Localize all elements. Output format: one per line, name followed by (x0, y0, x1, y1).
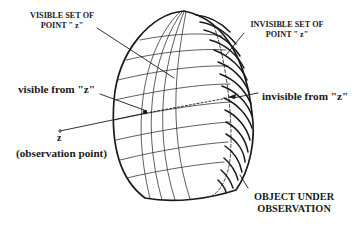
label-object-under-observation: OBJECT UNDER OBSERVATION (246, 192, 342, 215)
label-invisible-from: invisible from "z" (262, 91, 348, 102)
label-visible-set: VISIBLE SET OF POINT " z" (26, 12, 98, 30)
label-object-line2: OBSERVATION (246, 204, 342, 214)
latitude-grid-lines (114, 34, 230, 178)
label-observation-point-caption: (observation point) (16, 148, 107, 159)
sight-line (60, 113, 146, 131)
invisible-region-hatching (196, 15, 252, 192)
label-visible-from: visible from "z" (18, 84, 95, 95)
label-visible-set-line1: VISIBLE SET OF (26, 12, 98, 20)
label-observation-point-symbol: z (57, 133, 61, 143)
leader-visible-from (100, 94, 144, 110)
label-visible-set-line2: POINT " z" (26, 22, 98, 30)
label-object-line1: OBJECT UNDER (246, 192, 342, 202)
label-invisible-set-line2: POINT " z" (245, 31, 329, 39)
label-invisible-set: INVISIBLE SET OF POINT " z" (245, 21, 329, 39)
sight-line-through-object (146, 97, 233, 113)
visible-point-marker (143, 110, 147, 114)
label-invisible-set-line1: INVISIBLE SET OF (245, 21, 329, 29)
invisible-point-marker (228, 94, 236, 99)
